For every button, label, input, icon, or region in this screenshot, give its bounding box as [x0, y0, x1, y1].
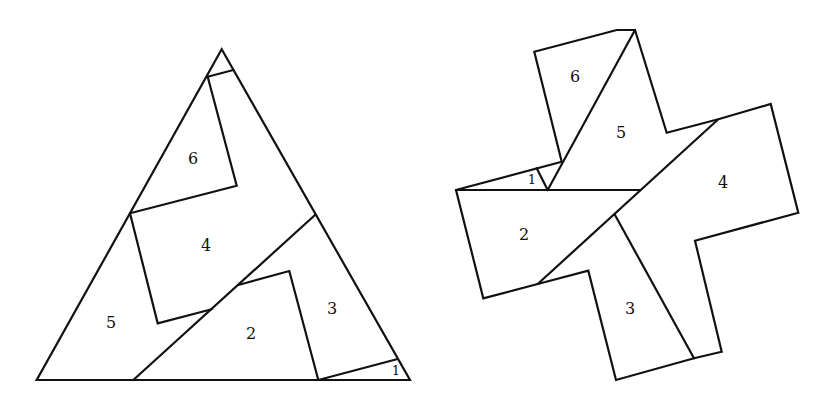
triangle-shape: 6 4 5 2 3 1 [37, 49, 410, 380]
piece-1-cut [318, 359, 396, 380]
label-6: 6 [570, 67, 580, 86]
label-4: 4 [201, 236, 211, 255]
label-1: 1 [528, 172, 536, 187]
label-3: 3 [327, 299, 337, 318]
cross-shape: 6 5 4 1 2 3 [456, 30, 798, 380]
label-2: 2 [246, 324, 256, 343]
label-5: 5 [106, 313, 116, 332]
piece-4-cut [130, 213, 212, 323]
piece-1-cut [537, 168, 548, 190]
dissection-figure: 6 4 5 2 3 1 6 5 4 1 2 3 [0, 0, 824, 408]
cross-outline [456, 30, 798, 380]
label-4: 4 [718, 173, 728, 192]
triangle-outline [37, 49, 410, 380]
label-2: 2 [519, 225, 529, 244]
piece-3-cut [615, 215, 694, 358]
label-1: 1 [392, 363, 400, 378]
label-3: 3 [625, 299, 635, 318]
main-diagonal-cut [133, 215, 315, 380]
label-6: 6 [188, 149, 198, 168]
label-5: 5 [616, 123, 626, 142]
main-diagonal-cut [538, 119, 719, 284]
triangle-top-cut [208, 70, 234, 77]
piece-5-diagonal [548, 30, 635, 190]
piece-6-cut [130, 77, 237, 214]
